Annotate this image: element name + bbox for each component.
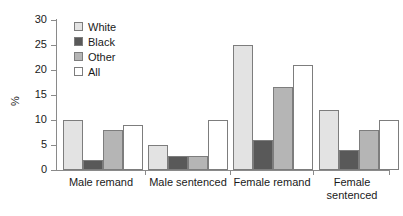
legend: White Black Other All — [74, 20, 116, 80]
y-tick-label-25: 25 — [35, 38, 47, 51]
y-tick-30: 30 — [51, 20, 56, 21]
legend-swatch-white-icon — [74, 22, 83, 31]
y-tick-label-30: 30 — [35, 13, 47, 26]
y-tick-label-0: 0 — [41, 163, 47, 176]
y-tick-15: 15 — [51, 95, 56, 96]
y-tick-label-5: 5 — [41, 138, 47, 151]
legend-label-black: Black — [88, 36, 115, 48]
y-tick-0: 0 — [51, 170, 56, 171]
x-axis-separator-2 — [230, 170, 231, 175]
y-tick-label-10: 10 — [35, 113, 47, 126]
legend-item-other: Other — [74, 50, 116, 63]
legend-label-other: Other — [88, 51, 116, 63]
x-axis-label-male-sentenced: Male sentenced — [146, 176, 230, 189]
bar-female-remand-other — [273, 87, 293, 170]
legend-swatch-all-icon — [74, 67, 83, 76]
x-axis-label-female-remand: Female remand — [231, 176, 313, 189]
legend-item-white: White — [74, 20, 116, 33]
y-tick-20: 20 — [51, 70, 56, 71]
legend-label-white: White — [88, 21, 116, 33]
bar-female-remand-all — [293, 65, 313, 170]
legend-swatch-other-icon — [74, 52, 83, 61]
y-tick-10: 10 — [51, 120, 56, 121]
bar-female-remand-white — [233, 45, 253, 170]
legend-swatch-black-icon — [74, 37, 83, 46]
bar-male-remand-white — [63, 120, 83, 170]
bar-male-remand-all — [123, 125, 143, 170]
y-axis-title: % — [9, 96, 21, 106]
bar-male-remand-other — [103, 130, 123, 170]
x-axis-label-male-remand: Male remand — [58, 176, 144, 189]
bar-male-sentenced-other — [188, 156, 208, 170]
bar-male-remand-black — [83, 160, 103, 170]
x-axis-label-female-sentenced: Female sentenced — [314, 176, 390, 201]
legend-item-all: All — [74, 65, 116, 78]
y-tick-label-15: 15 — [35, 88, 47, 101]
x-axis-separator-3 — [313, 170, 314, 175]
bar-female-sentenced-black — [339, 150, 359, 170]
x-axis-separator-1 — [145, 170, 146, 175]
bar-female-sentenced-white — [319, 110, 339, 170]
bar-male-sentenced-black — [168, 156, 188, 170]
y-tick-25: 25 — [51, 45, 56, 46]
y-tick-5: 5 — [51, 145, 56, 146]
legend-label-all: All — [88, 66, 100, 78]
x-axis-separator-4 — [389, 170, 390, 175]
bar-chart-figure: % 30 25 20 15 10 5 0 — [0, 0, 403, 216]
bar-male-sentenced-white — [148, 145, 168, 170]
bar-female-sentenced-other — [359, 130, 379, 170]
x-axis-line — [56, 170, 390, 171]
bar-male-sentenced-all — [208, 120, 228, 170]
bar-female-remand-black — [253, 140, 273, 170]
legend-item-black: Black — [74, 35, 116, 48]
y-tick-label-20: 20 — [35, 63, 47, 76]
bar-female-sentenced-all — [379, 120, 399, 170]
